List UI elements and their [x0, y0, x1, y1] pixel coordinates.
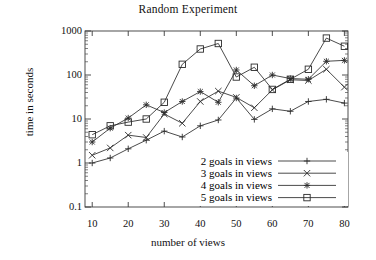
x-tick-label: 60 — [257, 219, 287, 229]
chart-figure: Random Experiment time in seconds number… — [0, 0, 376, 260]
chart-legend: 2 goals in views3 goals in views4 goals … — [190, 152, 348, 206]
x-tick-label: 40 — [185, 219, 215, 229]
data-series-group — [89, 35, 348, 166]
y-tick-label: 0.1 — [42, 202, 82, 212]
legend-marker-3 — [304, 182, 310, 188]
y-tick-label: 1 — [42, 158, 82, 168]
y-tick-label: 10 — [42, 114, 82, 124]
y-axis-label: time in seconds — [23, 27, 35, 177]
x-tick-label: 10 — [77, 219, 107, 229]
x-tick-label: 70 — [293, 219, 323, 229]
x-tick-label: 80 — [329, 219, 359, 229]
legend-label-3: 4 goals in views — [201, 179, 272, 191]
legend-label-4: 5 goals in views — [201, 191, 272, 203]
x-tick-label: 50 — [221, 219, 251, 229]
x-tick-label: 30 — [149, 219, 179, 229]
legend-label-2: 3 goals in views — [201, 167, 272, 179]
x-tick-label: 20 — [113, 219, 143, 229]
legend-label-1: 2 goals in views — [201, 155, 272, 167]
y-tick-label: 1000 — [42, 26, 82, 36]
y-tick-label: 100 — [42, 70, 82, 80]
x-axis-tick-labels: 1020304050607080 — [0, 212, 376, 228]
